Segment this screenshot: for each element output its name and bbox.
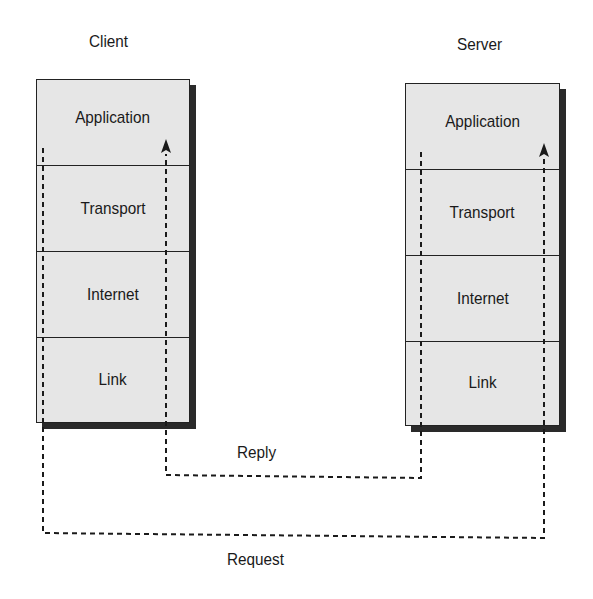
flow-lines bbox=[0, 0, 593, 599]
reply-arrowhead-icon bbox=[161, 139, 171, 153]
request-path bbox=[43, 148, 544, 538]
request-label: Request bbox=[227, 550, 284, 570]
request-arrowhead-icon bbox=[539, 143, 549, 157]
reply-path bbox=[166, 152, 421, 478]
reply-label: Reply bbox=[237, 443, 276, 463]
